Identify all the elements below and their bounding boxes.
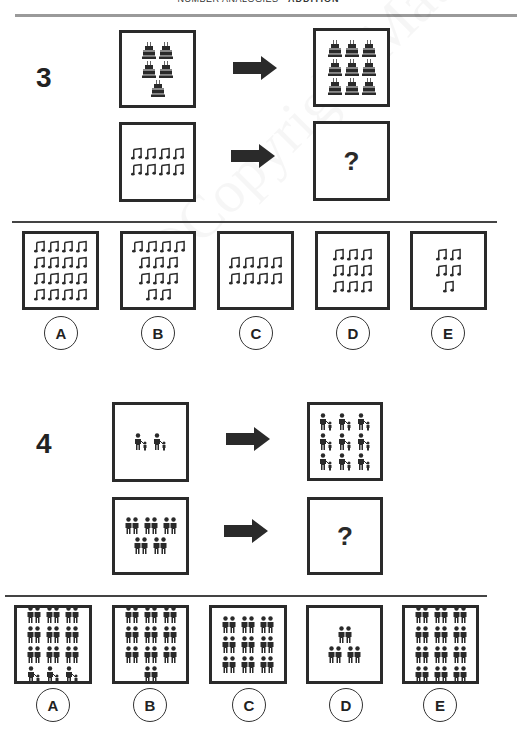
couple-icon xyxy=(433,606,449,624)
p4-option-d-label[interactable]: D xyxy=(329,688,363,722)
icon-row xyxy=(414,646,468,664)
p4-option-b-label[interactable]: B xyxy=(133,688,167,722)
p3-option-a-label[interactable]: A xyxy=(44,316,78,350)
p3-option-a-box[interactable] xyxy=(22,231,99,310)
arrow-right-icon xyxy=(226,427,270,451)
icon-row xyxy=(443,280,454,294)
couple-icon xyxy=(124,517,140,535)
music-note-icon xyxy=(76,240,87,254)
p4-example-to-icons xyxy=(318,413,372,471)
p4-option-b-box[interactable] xyxy=(112,605,189,684)
music-note-icon xyxy=(450,264,461,278)
couple-icon xyxy=(259,636,275,654)
icon-row xyxy=(328,40,376,57)
music-note-icon xyxy=(333,248,344,262)
couple-icon xyxy=(26,606,42,624)
p4-option-a-label[interactable]: A xyxy=(36,688,70,722)
couple-icon xyxy=(162,606,178,624)
p3-option-b-label[interactable]: B xyxy=(141,316,175,350)
p3-option-d-box[interactable] xyxy=(315,231,390,310)
music-note-icon xyxy=(361,264,372,278)
icon-row xyxy=(221,656,275,674)
birthday-cake-icon xyxy=(142,42,156,59)
birthday-cake-icon xyxy=(328,59,342,76)
p3-option-d-label[interactable]: D xyxy=(336,316,370,350)
p4-option-e-label[interactable]: E xyxy=(423,688,457,722)
icon-row xyxy=(139,256,178,270)
music-note-icon xyxy=(76,288,87,302)
couple-icon xyxy=(240,636,256,654)
birthday-cake-icon xyxy=(362,78,376,95)
p3-option-e-label[interactable]: E xyxy=(431,316,465,350)
music-note-icon xyxy=(333,264,344,278)
icon-row xyxy=(142,61,173,78)
p3-option-c-label[interactable]: C xyxy=(239,316,273,350)
music-note-icon xyxy=(347,248,358,262)
parent-child-icon xyxy=(356,413,372,431)
p3-option-c-box[interactable] xyxy=(217,231,294,310)
music-note-icon xyxy=(131,163,142,177)
music-note-icon xyxy=(146,240,157,254)
p4-option-a-box[interactable] xyxy=(14,605,92,684)
icon-row xyxy=(327,646,362,664)
couple-icon xyxy=(143,517,159,535)
music-note-icon xyxy=(271,272,282,286)
icon-row xyxy=(124,517,178,535)
p3-example-to-box xyxy=(313,28,390,107)
p4-option-d-box[interactable] xyxy=(306,605,383,684)
icon-row xyxy=(143,666,159,684)
parent-child-icon xyxy=(64,666,80,684)
header-rule xyxy=(15,14,517,17)
p4-example-from-box xyxy=(112,402,189,482)
arrow-right-icon xyxy=(224,519,268,543)
problem-number-3: 3 xyxy=(36,62,52,94)
icon-row xyxy=(142,42,173,59)
icon-row xyxy=(333,280,372,294)
p3-question-from-box xyxy=(119,122,196,202)
couple-icon xyxy=(240,616,256,634)
couple-icon xyxy=(414,626,430,644)
music-note-icon xyxy=(347,264,358,278)
couple-icon xyxy=(143,606,159,624)
p4-question-from-box xyxy=(112,497,189,575)
music-note-icon xyxy=(347,280,358,294)
couple-icon xyxy=(133,537,149,555)
icon-row xyxy=(124,606,178,624)
p3-answer-box: ? xyxy=(313,121,390,201)
music-note-icon xyxy=(48,288,59,302)
header-topic: ADDITION xyxy=(288,0,340,4)
music-note-icon xyxy=(145,163,156,177)
couple-icon xyxy=(143,666,159,684)
p4-option-c-box[interactable] xyxy=(209,605,287,684)
parent-child-icon xyxy=(26,666,42,684)
question-mark: ? xyxy=(344,146,360,177)
p3-option-e-icons xyxy=(436,248,461,294)
music-note-icon xyxy=(34,288,45,302)
icon-row xyxy=(436,248,461,262)
icon-row xyxy=(414,606,468,624)
p3-option-b-box[interactable] xyxy=(120,231,196,310)
music-note-icon xyxy=(174,240,185,254)
couple-icon xyxy=(221,616,237,634)
couple-icon xyxy=(452,646,468,664)
couple-icon xyxy=(221,656,237,674)
parent-child-icon xyxy=(356,453,372,471)
p3-option-e-box[interactable] xyxy=(410,231,487,310)
p4-option-e-box[interactable] xyxy=(402,605,479,684)
p4-option-b-icons xyxy=(124,606,178,684)
couple-icon xyxy=(346,646,362,664)
p4-example-to-box xyxy=(307,402,383,481)
p4-question-arrow xyxy=(224,519,268,547)
icon-row xyxy=(34,240,87,254)
p4-option-e-icons xyxy=(414,606,468,684)
music-note-icon xyxy=(333,280,344,294)
p3-example-from-box xyxy=(119,30,196,108)
couple-icon xyxy=(433,646,449,664)
parent-child-icon xyxy=(337,453,353,471)
icon-row xyxy=(414,666,468,684)
p4-option-c-label[interactable]: C xyxy=(232,688,266,722)
icon-row xyxy=(34,256,87,270)
question-mark: ? xyxy=(337,521,353,552)
music-note-icon xyxy=(139,256,150,270)
parent-child-icon xyxy=(318,413,334,431)
